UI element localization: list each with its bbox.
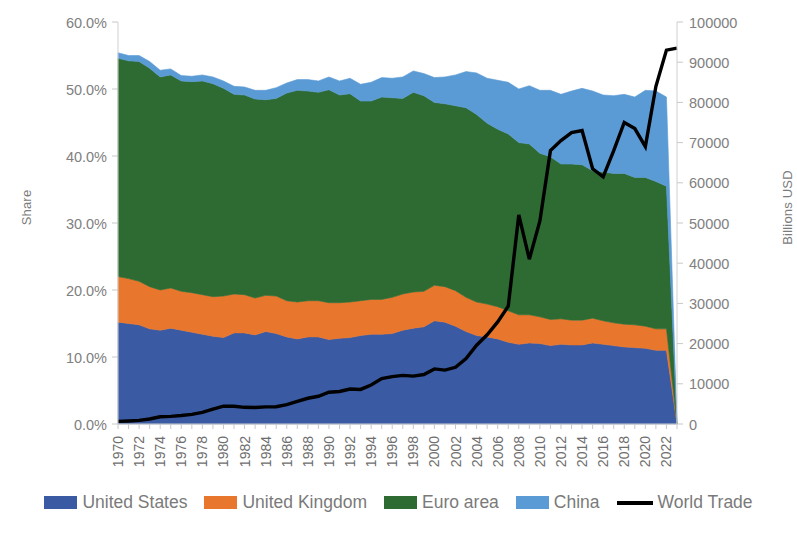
x-axis-tick-label: 1984 — [258, 436, 274, 467]
legend-label: China — [554, 492, 600, 513]
x-axis-tick-label: 1980 — [215, 436, 231, 467]
x-axis-tick-label: 1974 — [152, 436, 168, 467]
x-axis-tick-label: 2018 — [616, 436, 632, 467]
x-axis-tick-label: 2016 — [595, 436, 611, 467]
y-axis-left-tick-label: 20.0% — [66, 283, 107, 299]
legend-item[interactable]: Euro area — [384, 492, 499, 513]
y-axis-left-tick-label: 30.0% — [66, 216, 107, 232]
y-axis-right-tick-label: 0 — [689, 417, 697, 433]
x-axis-tick-label: 1986 — [279, 436, 295, 467]
x-axis-tick-label: 2002 — [448, 436, 464, 467]
x-axis-tick-label: 1994 — [363, 436, 379, 467]
x-axis-tick-label: 2008 — [511, 436, 527, 467]
y-axis-right-tick-label: 40000 — [689, 256, 729, 272]
legend-color-swatch — [44, 496, 77, 509]
x-axis-tick-label: 1998 — [405, 436, 421, 467]
y-axis-right-tick-label: 70000 — [689, 135, 729, 151]
x-axis-tick-label: 1972 — [131, 436, 147, 467]
y-axis-right-tick-label: 90000 — [689, 55, 729, 71]
x-axis-tick-label: 2006 — [490, 436, 506, 467]
y-axis-right-tick-label: 100000 — [689, 15, 737, 31]
x-axis-tick-label: 2020 — [637, 436, 653, 467]
chart-container: Share Billions USD 0.0%10.0%20.0%30.0%40… — [0, 0, 797, 534]
y-axis-left-tick-label: 10.0% — [66, 350, 107, 366]
legend-label: United Kingdom — [242, 492, 367, 513]
legend-item[interactable]: United Kingdom — [204, 492, 367, 513]
x-axis-tick-label: 2010 — [532, 436, 548, 467]
x-axis-tick-label: 1978 — [194, 436, 210, 467]
chart-legend: United StatesUnited KingdomEuro areaChin… — [0, 492, 797, 513]
legend-line-marker — [617, 501, 653, 505]
legend-label: United States — [82, 492, 187, 513]
x-axis-tick-label: 1992 — [342, 436, 358, 467]
y-axis-left-tick-label: 0.0% — [74, 417, 107, 433]
chart-plot: 0.0%10.0%20.0%30.0%40.0%50.0%60.0% 01000… — [0, 0, 797, 534]
x-axis-tick-label: 1976 — [173, 436, 189, 467]
y-axis-right-tick-label: 60000 — [689, 175, 729, 191]
x-axis-tick-label: 1970 — [110, 436, 126, 467]
y-axis-right-tick-label: 30000 — [689, 296, 729, 312]
y-axis-left-tick-label: 40.0% — [66, 149, 107, 165]
x-axis-tick-label: 2012 — [553, 436, 569, 467]
x-axis-tick-label: 1982 — [237, 436, 253, 467]
legend-color-swatch — [204, 496, 237, 509]
x-axis-tick-label: 1990 — [321, 436, 337, 467]
legend-item[interactable]: China — [516, 492, 600, 513]
y-axis-right-ticks: 0100002000030000400005000060000700008000… — [677, 15, 737, 433]
y-axis-left-tick-label: 60.0% — [66, 15, 107, 31]
x-axis-tick-label: 2022 — [658, 436, 674, 467]
legend-item[interactable]: United States — [44, 492, 187, 513]
x-axis-ticks: 1970197219741976197819801982198419861988… — [110, 424, 677, 467]
legend-color-swatch — [384, 496, 417, 509]
y-axis-right-tick-label: 20000 — [689, 336, 729, 352]
x-axis-tick-label: 2004 — [469, 436, 485, 467]
y-axis-right-tick-label: 10000 — [689, 376, 729, 392]
x-axis-tick-label: 1996 — [384, 436, 400, 467]
y-axis-left-tick-label: 50.0% — [66, 82, 107, 98]
y-axis-right-tick-label: 50000 — [689, 216, 729, 232]
y-axis-left-ticks: 0.0%10.0%20.0%30.0%40.0%50.0%60.0% — [66, 15, 118, 433]
legend-label: Euro area — [422, 492, 499, 513]
legend-item[interactable]: World Trade — [617, 492, 753, 513]
x-axis-tick-label: 1988 — [300, 436, 316, 467]
stacked-areas — [118, 53, 677, 424]
x-axis-tick-label: 2000 — [426, 436, 442, 467]
legend-color-swatch — [516, 496, 549, 509]
legend-label: World Trade — [658, 492, 753, 513]
y-axis-right-tick-label: 80000 — [689, 95, 729, 111]
x-axis-tick-label: 2014 — [574, 436, 590, 467]
